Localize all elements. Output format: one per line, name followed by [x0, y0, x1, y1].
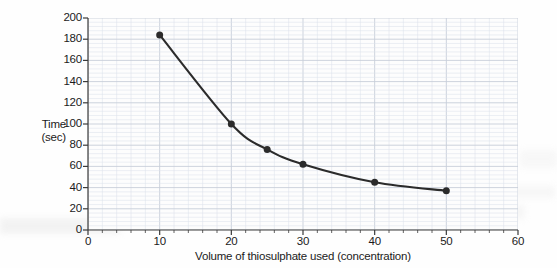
y-tick-label: 120 — [48, 97, 82, 109]
y-tick-label: 40 — [48, 182, 82, 194]
x-tick-label: 10 — [140, 236, 180, 248]
data-series-curve — [88, 18, 518, 230]
scan-artifact — [520, 150, 557, 168]
x-tick-label: 50 — [426, 236, 466, 248]
x-tick-label: 30 — [283, 236, 323, 248]
y-tick-label: 200 — [48, 12, 82, 24]
y-tick-label: 0 — [48, 224, 82, 236]
y-tick-label: 20 — [48, 203, 82, 215]
x-tick-label: 40 — [355, 236, 395, 248]
y-axis-title-line1: Time — [14, 118, 66, 131]
y-tick-label: 180 — [48, 33, 82, 45]
y-tick-label: 160 — [48, 54, 82, 66]
y-axis-title: Time (sec) — [14, 118, 66, 144]
y-tick-label: 140 — [48, 76, 82, 88]
y-tick-label: 60 — [48, 160, 82, 172]
chart-figure: 020406080100120140160180200 010203040506… — [0, 0, 557, 268]
x-tick-label: 0 — [68, 236, 108, 248]
x-axis-title: Volume of thiosulphate used (concentrati… — [88, 250, 518, 262]
x-tick-label: 60 — [498, 236, 538, 248]
y-axis-title-line2: (sec) — [14, 131, 66, 144]
plot-area — [88, 18, 518, 230]
x-tick-label: 20 — [211, 236, 251, 248]
